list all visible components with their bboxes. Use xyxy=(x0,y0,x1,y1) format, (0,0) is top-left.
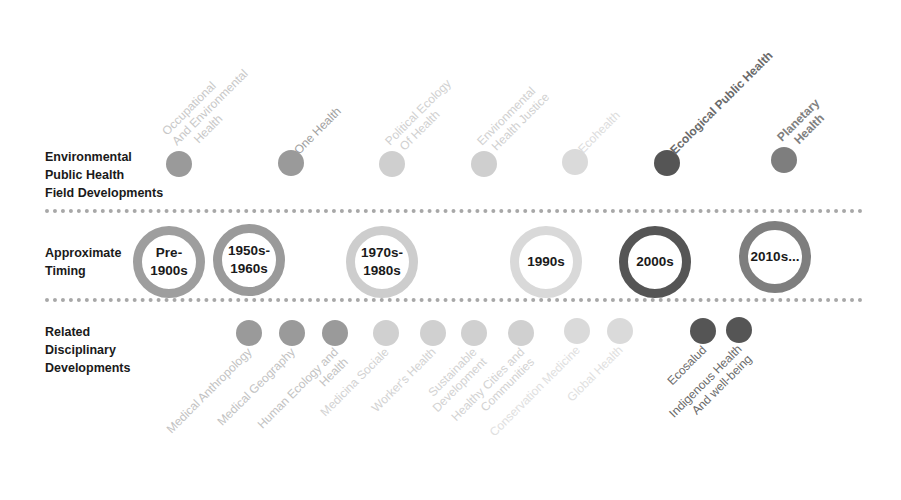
related-development-dot xyxy=(279,320,305,346)
timing-label: 2000s xyxy=(636,253,674,271)
timing-ring: 2010s... xyxy=(739,221,811,293)
related-development-dot xyxy=(322,320,348,346)
timing-ring: 2000s xyxy=(619,226,691,298)
related-development-dot xyxy=(236,320,262,346)
related-development-dot xyxy=(461,320,487,346)
field-development-label: One Health xyxy=(291,104,344,157)
timing-ring: 1990s xyxy=(510,226,582,298)
timing-ring: 1950s- 1960s xyxy=(213,224,285,296)
related-development-dot xyxy=(607,318,633,344)
field-development-label: Ecohealth xyxy=(575,108,623,156)
related-development-dot xyxy=(508,320,534,346)
related-development-dot xyxy=(373,320,399,346)
divider-bottom xyxy=(45,298,863,302)
field-development-label: Planetary Health xyxy=(774,96,832,154)
timing-label: 1950s- 1960s xyxy=(228,242,270,278)
related-development-label: Indigenous Health And well-being xyxy=(667,342,755,430)
row-label-approximate-timing: Approximate Timing xyxy=(45,244,121,280)
related-development-dot xyxy=(690,318,716,344)
timing-ring: Pre- 1900s xyxy=(133,226,205,298)
timing-label: 1990s xyxy=(527,253,565,271)
field-development-label: Environmental Health Justice xyxy=(474,80,552,158)
field-development-label: Ecological Public Health xyxy=(667,49,775,157)
row-label-related-developments: Related Disciplinary Developments xyxy=(45,323,130,377)
timing-ring: 1970s- 1980s xyxy=(346,226,418,298)
related-development-dot xyxy=(726,317,752,343)
timing-label: 1970s- 1980s xyxy=(361,244,403,280)
field-development-label: Occupational And Environmental Health xyxy=(159,57,260,158)
timing-label: 2010s... xyxy=(751,248,800,266)
timing-label: Pre- 1900s xyxy=(150,244,188,280)
related-development-dot xyxy=(420,320,446,346)
divider-top xyxy=(45,209,863,213)
row-label-field-developments: Environmental Public Health Field Develo… xyxy=(45,148,163,202)
related-development-dot xyxy=(564,318,590,344)
field-development-label: Political Ecology Of Health xyxy=(382,76,464,158)
